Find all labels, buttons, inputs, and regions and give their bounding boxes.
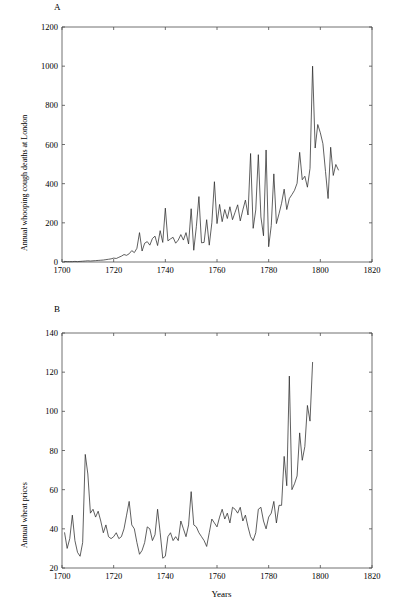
svg-text:1800: 1800: [312, 265, 329, 275]
svg-text:1740: 1740: [157, 571, 174, 581]
svg-text:1820: 1820: [364, 265, 381, 275]
svg-text:100: 100: [45, 406, 58, 416]
svg-text:140: 140: [45, 328, 58, 338]
svg-text:1700: 1700: [54, 265, 71, 275]
svg-text:1760: 1760: [209, 265, 226, 275]
panel-b-xlabel: Years: [22, 589, 399, 599]
svg-text:600: 600: [45, 140, 58, 150]
svg-text:1780: 1780: [260, 265, 277, 275]
svg-text:1200: 1200: [41, 22, 58, 32]
svg-text:1740: 1740: [157, 265, 174, 275]
figure-container: A Annual whooping cough deaths at London…: [0, 0, 399, 612]
svg-text:1820: 1820: [364, 571, 381, 581]
svg-text:200: 200: [45, 218, 58, 228]
panel-b: B Annual wheat prices 204060801001201401…: [0, 300, 399, 612]
svg-text:400: 400: [45, 179, 58, 189]
svg-text:80: 80: [50, 446, 59, 456]
svg-text:1720: 1720: [105, 265, 122, 275]
svg-text:40: 40: [50, 524, 59, 534]
svg-text:1000: 1000: [41, 61, 58, 71]
svg-text:60: 60: [50, 485, 59, 495]
svg-text:120: 120: [45, 367, 58, 377]
svg-text:1780: 1780: [260, 571, 277, 581]
panel-b-plot: 2040608010012014017001720174017601780180…: [0, 300, 399, 612]
svg-text:1720: 1720: [105, 571, 122, 581]
svg-text:1800: 1800: [312, 571, 329, 581]
svg-text:1700: 1700: [54, 571, 71, 581]
svg-text:1760: 1760: [209, 571, 226, 581]
panel-a: A Annual whooping cough deaths at London…: [0, 0, 399, 300]
panel-a-plot: 0200400600800100012001700172017401760178…: [0, 0, 399, 300]
svg-text:800: 800: [45, 100, 58, 110]
